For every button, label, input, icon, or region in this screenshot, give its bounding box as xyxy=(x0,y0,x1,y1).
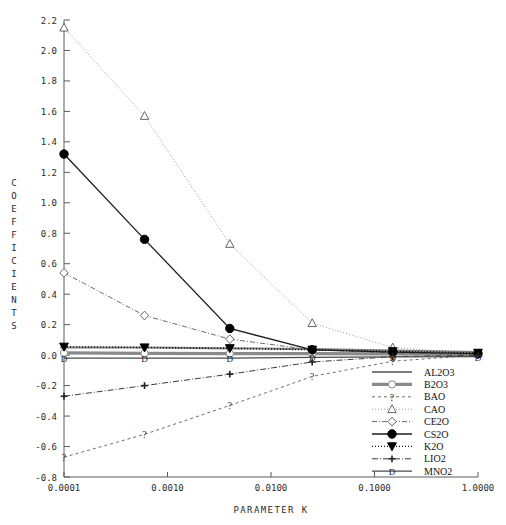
data-point-marker xyxy=(226,240,234,248)
data-point-marker: ? xyxy=(228,400,233,411)
y-axis-title-char: O xyxy=(11,191,16,201)
y-axis-title-char: F xyxy=(11,217,16,227)
legend-label: MNO2 xyxy=(424,466,452,477)
y-tick-label: 1.4 xyxy=(41,137,57,147)
x-axis-title: PARAMETER K xyxy=(233,505,308,515)
data-point-marker xyxy=(308,319,316,327)
y-tick-label: -0.8 xyxy=(35,473,57,483)
y-axis-title-char: I xyxy=(11,269,16,279)
y-axis-title-char: E xyxy=(11,282,16,292)
data-point-marker xyxy=(388,443,397,451)
data-point-marker xyxy=(226,324,234,332)
legend-item-bao[interactable]: ?BAO xyxy=(372,391,445,402)
y-tick-label: -0.2 xyxy=(35,381,57,391)
data-point-marker: D xyxy=(61,354,68,364)
legend-item-k2o[interactable]: K2O xyxy=(372,441,443,452)
legend-item-mno2[interactable]: DMNO2 xyxy=(372,466,452,477)
legend-item-cao[interactable]: CAO xyxy=(372,404,445,415)
x-tick-label: 0.1000 xyxy=(358,483,391,493)
legend-item-cs2o[interactable]: CS2O xyxy=(372,429,448,440)
y-axis-title-char: E xyxy=(11,204,16,214)
y-axis-title-char: I xyxy=(11,243,16,253)
data-point-marker xyxy=(60,150,68,158)
x-tick-label: 0.0010 xyxy=(151,483,184,493)
legend-item-al2o3[interactable]: AL2O3 xyxy=(372,367,455,378)
y-tick-label: 2.2 xyxy=(41,16,57,26)
x-tick-label: 0.0100 xyxy=(255,483,288,493)
y-axis-title-char: S xyxy=(11,321,16,331)
data-point-marker: ? xyxy=(62,452,67,463)
y-tick-label: 0.0 xyxy=(41,351,57,361)
series-ce2o xyxy=(60,268,482,358)
data-point-marker: D xyxy=(389,467,396,477)
data-point-marker xyxy=(140,112,148,120)
data-point-marker: D xyxy=(475,353,482,363)
legend-item-b2o3[interactable]: B2O3 xyxy=(372,379,448,390)
y-axis-title-char: N xyxy=(11,295,16,305)
legend-label: CAO xyxy=(424,404,445,415)
data-point-marker xyxy=(388,381,395,388)
x-tick-label: 0.0001 xyxy=(48,483,81,493)
data-point-marker: ? xyxy=(390,392,395,403)
data-point-marker: ? xyxy=(310,371,315,382)
series-layer: ??????DDDDDD xyxy=(60,23,483,463)
data-point-marker xyxy=(140,235,148,243)
legend-label: CS2O xyxy=(424,429,448,440)
series-line xyxy=(64,355,478,457)
y-tick-label: 0.2 xyxy=(41,320,57,330)
y-axis-title-char: T xyxy=(11,308,17,318)
y-tick-label: 0.8 xyxy=(41,229,57,239)
data-point-marker xyxy=(388,417,396,426)
legend-item-lio2[interactable]: LIO2 xyxy=(372,453,446,464)
data-point-marker xyxy=(388,430,396,438)
chart-page: 2.22.01.81.61.41.21.00.80.60.40.20.0-0.2… xyxy=(0,0,506,525)
data-point-marker xyxy=(60,268,68,277)
data-point-marker: D xyxy=(141,354,148,364)
legend-item-ce2o[interactable]: CE2O xyxy=(372,416,449,427)
coefficients-vs-parameter-k-chart: 2.22.01.81.61.41.21.00.80.60.40.20.0-0.2… xyxy=(0,0,506,525)
series-line xyxy=(64,154,478,354)
y-tick-label: -0.6 xyxy=(35,442,57,452)
legend-label: LIO2 xyxy=(424,453,446,464)
y-tick-label: 1.0 xyxy=(41,198,57,208)
series-cao xyxy=(60,23,482,357)
x-tick-label: 1.0000 xyxy=(462,483,495,493)
legend-label: AL2O3 xyxy=(424,367,455,378)
series-line xyxy=(64,355,478,396)
series-line xyxy=(64,28,478,354)
data-point-marker xyxy=(388,405,396,413)
data-point-marker xyxy=(140,311,148,320)
legend-label: B2O3 xyxy=(424,379,448,390)
data-point-marker: ? xyxy=(142,429,147,440)
series-line xyxy=(64,357,478,359)
series-line xyxy=(64,273,478,354)
y-tick-label: 1.6 xyxy=(41,107,57,117)
data-point-marker: D xyxy=(309,353,316,363)
series-cs2o xyxy=(60,150,482,358)
legend-label: K2O xyxy=(424,441,443,452)
data-point-marker: D xyxy=(227,354,234,364)
series-bao: ?????? xyxy=(62,350,481,463)
y-axis-title-char: C xyxy=(11,256,16,266)
y-tick-label: 1.8 xyxy=(41,76,57,86)
legend-layer: AL2O3B2O3?BAOCAOCE2OCS2OK2OLIO2DMNO2 xyxy=(368,362,496,482)
y-tick-label: -0.4 xyxy=(35,412,57,422)
y-axis-title-char: C xyxy=(11,178,16,188)
data-point-marker: D xyxy=(389,353,396,363)
legend-label: CE2O xyxy=(424,416,449,427)
legend-label: BAO xyxy=(424,391,445,402)
y-tick-label: 2.0 xyxy=(41,46,57,56)
y-tick-label: 1.2 xyxy=(41,168,57,178)
data-point-marker xyxy=(60,23,68,31)
y-axis-title-char: F xyxy=(11,230,16,240)
y-tick-label: 0.6 xyxy=(41,259,57,269)
data-point-marker xyxy=(226,335,234,344)
y-tick-label: 0.4 xyxy=(41,290,57,300)
